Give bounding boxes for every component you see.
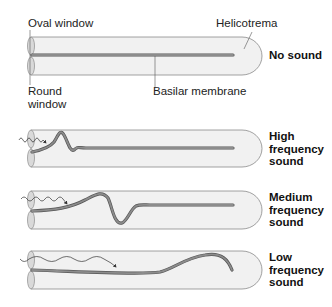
label-basilar-membrane: Basilar membrane: [153, 85, 246, 98]
condition-medium-frequency: Medium frequency sound: [269, 191, 324, 229]
label-helicotrema: Helicotrema: [216, 17, 277, 30]
tube-medium-frequency: [21, 191, 262, 229]
tube-high-frequency: [19, 130, 262, 167]
label-oval-window: Oval window: [28, 17, 93, 30]
condition-no-sound: No sound: [269, 49, 322, 62]
condition-high-frequency: High frequency sound: [269, 130, 324, 168]
oval-window-shape: [28, 37, 35, 55]
round-window-shape: [28, 57, 35, 75]
tube-no-sound: [28, 30, 263, 87]
condition-low-frequency: Low frequency sound: [269, 251, 324, 289]
tube-low-frequency: [20, 251, 262, 289]
label-round-window: Round window: [28, 85, 66, 111]
